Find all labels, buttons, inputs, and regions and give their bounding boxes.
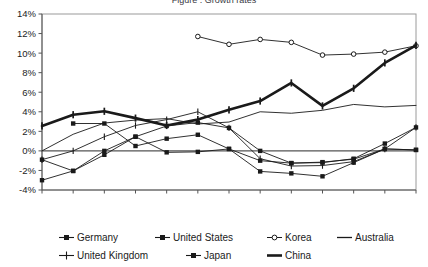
data-point-marker: [227, 147, 231, 151]
legend-label: United States: [173, 232, 233, 243]
legend-item-korea[interactable]: Korea: [266, 232, 336, 243]
data-point-marker: [102, 153, 106, 157]
series-korea: [196, 34, 419, 57]
legend-item-japan[interactable]: Japan: [185, 250, 266, 261]
legend-key-filled-square-icon: [58, 232, 75, 243]
legend-key-plus-icon: [58, 250, 75, 261]
x-axis-tick-label: 1995: [31, 195, 52, 198]
legend-label: Australia: [355, 232, 394, 243]
x-axis-tick-label: 1996: [63, 195, 84, 198]
legend-key-filled-square-icon: [185, 250, 202, 261]
x-axis-tick-label: 2004: [312, 195, 333, 198]
y-axis-tick-label: 6%: [22, 87, 36, 98]
series-line: [42, 45, 416, 126]
data-point-marker: [414, 148, 418, 152]
data-point-marker: [320, 174, 324, 178]
x-axis-tick-label: 1998: [125, 195, 146, 198]
legend-label: Japan: [204, 250, 231, 261]
data-point-marker: [40, 178, 44, 182]
data-point-marker: [289, 40, 294, 45]
y-axis-tick-label: -2%: [19, 165, 36, 176]
data-point-marker: [383, 141, 387, 145]
data-point-marker: [196, 34, 201, 39]
legend-row-2: United Kingdom Japan China: [0, 246, 428, 264]
chart-legend: Germany United States Korea: [0, 228, 428, 267]
plot-frame: [42, 14, 416, 190]
legend-item-germany[interactable]: Germany: [58, 232, 154, 243]
legend-label: United Kingdom: [77, 250, 148, 261]
y-axis-tick-label: 14%: [17, 8, 37, 19]
legend-key-open-circle-icon: [266, 232, 283, 243]
y-axis-tick-label: -4%: [19, 184, 36, 195]
legend-item-china[interactable]: China: [266, 250, 336, 261]
x-axis-tick-label: 2007: [405, 195, 426, 198]
x-axis-tick-label: 1999: [156, 195, 177, 198]
data-point-marker: [164, 150, 168, 154]
legend-label: Germany: [77, 232, 118, 243]
x-axis-tick-label: 2001: [218, 195, 239, 198]
data-point-marker: [383, 50, 388, 55]
x-axis-tick-label: 1997: [94, 195, 115, 198]
legend-row-1: Germany United States Korea: [0, 228, 428, 246]
series-china: [42, 42, 416, 130]
legend-key-plain-line-icon: [336, 232, 353, 243]
legend-item-australia[interactable]: Australia: [336, 232, 426, 243]
legend-item-united-kingdom[interactable]: United Kingdom: [58, 250, 185, 261]
x-axis-tick-label: 2006: [374, 195, 395, 198]
data-point-marker: [227, 42, 232, 47]
legend-key-filled-square-icon: [154, 232, 171, 243]
legend-label: Korea: [285, 232, 312, 243]
data-point-marker: [102, 149, 106, 153]
page-title: Figure : Growth rates: [0, 0, 428, 5]
data-point-marker: [351, 160, 355, 164]
y-axis-tick-label: 4%: [22, 106, 36, 117]
x-axis-tick-label: 2003: [281, 195, 302, 198]
data-point-marker: [258, 169, 262, 173]
data-point-marker: [320, 53, 325, 58]
plot-area: 14%12%10%8%6%4%2%0%-2%-4%199519961997199…: [0, 8, 428, 198]
y-axis-tick-label: 0%: [22, 145, 36, 156]
data-point-marker: [133, 135, 137, 139]
data-point-marker: [71, 121, 75, 125]
legend-key-thick-line-icon: [266, 250, 283, 261]
legend-label: China: [285, 250, 311, 261]
data-point-marker: [289, 171, 293, 175]
data-point-marker: [258, 37, 263, 42]
data-point-marker: [383, 147, 387, 151]
legend-item-united-states[interactable]: United States: [154, 232, 266, 243]
data-point-marker: [196, 133, 200, 137]
y-axis-tick-label: 2%: [22, 126, 36, 137]
x-axis-tick-label: 2005: [343, 195, 364, 198]
y-axis-tick-label: 12%: [17, 28, 37, 39]
data-point-marker: [196, 150, 200, 154]
data-point-marker: [351, 52, 356, 57]
x-axis-tick-label: 2000: [187, 195, 208, 198]
y-axis-tick-label: 10%: [17, 48, 37, 59]
x-axis-tick-label: 2002: [250, 195, 271, 198]
line-chart: 14%12%10%8%6%4%2%0%-2%-4%199519961997199…: [0, 8, 428, 198]
data-point-marker: [258, 149, 262, 153]
data-point-marker: [133, 144, 137, 148]
chart-screenshot: Figure : Growth rates 14%12%10%8%6%4%2%0…: [0, 0, 428, 267]
y-axis-tick-label: 8%: [22, 67, 36, 78]
data-point-marker: [164, 136, 168, 140]
data-point-marker: [71, 169, 75, 173]
